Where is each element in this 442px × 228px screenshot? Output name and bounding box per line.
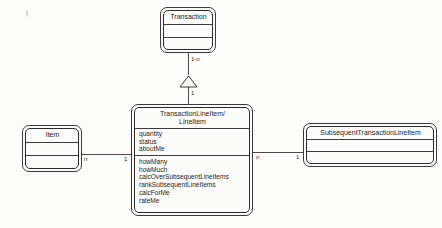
attributes-compartment-transaction-line-item: quantity status aboutMe: [135, 129, 249, 156]
class-box-subsequent-transaction-line-item[interactable]: SubsequentTransactionLineItem: [303, 123, 437, 167]
attributes-compartment-subsequent: [307, 140, 433, 152]
operation-how-many: howMany: [139, 158, 246, 166]
attribute-status: status: [139, 138, 246, 146]
generalization-line-upper: [188, 53, 189, 75]
class-name-line-2: LineItem: [139, 118, 246, 126]
class-name-line-1: TransactionLineItem/: [139, 110, 246, 118]
operation-calc-over-subsequent-line-items: calcOverSubsequentLineItems: [139, 173, 246, 181]
operation-rate-me: rateMe: [139, 197, 246, 205]
class-box-subsequent-transaction-line-item-inner: SubsequentTransactionLineItem: [306, 126, 434, 164]
operation-calc-for-me: calcForMe: [139, 189, 246, 197]
operations-compartment-transaction: [164, 38, 212, 50]
diagram-canvas: Transaction 1-n 1 TransactionLineItem/ L…: [0, 0, 442, 228]
multiplicity-subsequent-end: 1: [296, 154, 299, 160]
class-name-transaction-line-item: TransactionLineItem/ LineItem: [135, 108, 249, 129]
class-name-subsequent-transaction-line-item: SubsequentTransactionLineItem: [307, 127, 433, 140]
class-box-transaction-line-item-inner: TransactionLineItem/ LineItem quantity s…: [134, 107, 250, 213]
association-line-lineitem-subsequent: [253, 152, 303, 153]
operations-compartment-subsequent: [307, 152, 433, 163]
multiplicity-transaction-end: 1-n: [191, 56, 200, 62]
scan-artifact-mark: [26, 10, 28, 17]
multiplicity-lineitem-generalization-end: 1: [191, 90, 194, 96]
attributes-compartment-transaction: [164, 25, 212, 38]
multiplicity-item-end: n: [84, 156, 87, 162]
operations-compartment-item: [26, 156, 78, 168]
class-box-transaction-inner: Transaction: [163, 10, 213, 50]
association-line-item-lineitem: [82, 154, 131, 155]
attribute-about-me: aboutMe: [139, 145, 246, 153]
operation-how-much: howMuch: [139, 166, 246, 174]
multiplicity-lineitem-left-end: 1: [124, 156, 127, 162]
operations-compartment-transaction-line-item: howMany howMuch calcOverSubsequentLineIt…: [135, 156, 249, 212]
multiplicity-lineitem-right-end: n: [256, 154, 259, 160]
class-name-item: Item: [26, 129, 78, 143]
attributes-compartment-item: [26, 143, 78, 156]
class-box-transaction-line-item[interactable]: TransactionLineItem/ LineItem quantity s…: [131, 104, 253, 216]
class-box-item[interactable]: Item: [22, 125, 82, 172]
generalization-line-lower: [188, 87, 189, 104]
operation-rank-subsequent-line-items: rankSubsequentLineItems: [139, 181, 246, 189]
class-box-transaction[interactable]: Transaction: [160, 7, 216, 53]
attribute-quantity: quantity: [139, 130, 246, 138]
class-name-transaction: Transaction: [164, 11, 212, 25]
class-box-item-inner: Item: [25, 128, 79, 169]
